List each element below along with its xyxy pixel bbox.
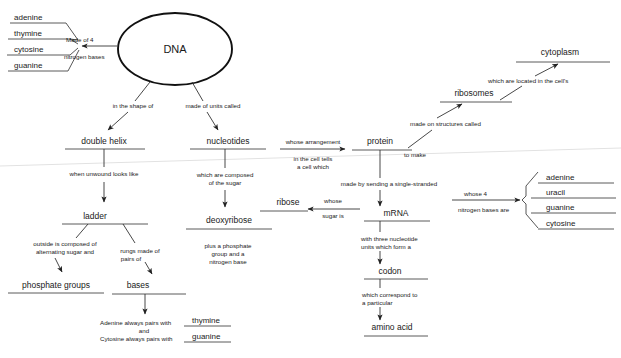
- node-amino-acid: amino acid: [371, 322, 412, 332]
- node-phosphate-groups: phosphate groups: [22, 280, 90, 290]
- link-ladder-to-bases: [145, 262, 152, 274]
- link-label-made-by-sending: made by sending a single-stranded: [341, 180, 438, 187]
- link-to-cytoplasm-arrow: [535, 64, 558, 76]
- link-label-correspond-1: which correspond to: [361, 291, 418, 298]
- node-cytoplasm: cytoplasm: [541, 47, 579, 57]
- pairing-line1-value: thymine: [192, 316, 221, 325]
- link-label-whose: whose: [323, 197, 342, 204]
- link-label-which-are-located: which are located in the cell's: [487, 77, 568, 84]
- link-label-correspond-2: a particular: [362, 299, 393, 306]
- link-ladder-outside: [76, 224, 88, 238]
- concept-map-canvas: adenine thymine cytosine guanine Made of…: [0, 0, 621, 358]
- link-label-rungs-2: pairs of: [121, 255, 142, 262]
- link-shape-arrow: [108, 112, 128, 130]
- mrna-base-item-2: guanine: [546, 203, 575, 212]
- link-label-in-the-shape-of: in the shape of: [113, 102, 154, 109]
- node-ribosomes: ribosomes: [454, 88, 493, 98]
- mrna-base-item-1: uracil: [546, 188, 565, 197]
- node-bases: bases: [127, 280, 150, 290]
- node-nucleotides: nucleotides: [206, 136, 249, 146]
- link-label-outside-2: alternating sugar and: [36, 248, 95, 255]
- link-to-ribosomes-arrow: [437, 104, 462, 118]
- link-label-to-make: to make: [404, 151, 427, 158]
- node-double-helix: double helix: [81, 136, 127, 146]
- link-label-whose-arrangement: whose arrangement: [285, 138, 341, 145]
- concept-map-svg: adenine thymine cytosine guanine Made of…: [0, 0, 621, 358]
- link-dna-to-units: [192, 82, 203, 101]
- dna-base-item-0: adenine: [14, 13, 43, 22]
- link-label-composed-2: of the sugar: [209, 179, 242, 186]
- link-label-plus-phosphate-2: group and a: [211, 250, 245, 257]
- link-label-outside-1: outside is composed of: [33, 240, 97, 247]
- link-label-when-unwound: when unwound looks like: [69, 170, 139, 177]
- dna-node-label: DNA: [163, 43, 187, 55]
- link-label-with-three-2: units which form a: [361, 243, 411, 250]
- link-label-made-of-units-called: made of units called: [185, 102, 241, 109]
- link-ladder-rungs: [123, 224, 135, 243]
- pairing-joiner: and: [139, 327, 150, 334]
- link-label-made-on-structures: made on structures called: [410, 120, 481, 127]
- link-ribosomes-stem: [500, 86, 522, 100]
- dna-base-item-3: guanine: [14, 61, 43, 70]
- dna-base-item-2: cytosine: [14, 45, 44, 54]
- link-units-arrow: [207, 112, 218, 130]
- mrna-base-brace: [522, 172, 538, 228]
- link-label-with-three-1: with three nucleotide: [360, 235, 418, 242]
- link-label-nitrogen-bases-are: nitrogen bases are: [458, 206, 510, 213]
- link-label-plus-phosphate-3: nitrogen base: [209, 258, 247, 265]
- pairing-line1-prefix: Adenine always pairs with: [100, 319, 172, 326]
- node-codon: codon: [378, 266, 401, 276]
- mrna-bases-list: adenine uracil guanine cytosine: [522, 172, 616, 229]
- node-ribose: ribose: [276, 197, 299, 207]
- link-label-cell-tells-2: a cell which: [297, 163, 330, 170]
- link-dna-to-shape: [135, 82, 150, 101]
- link-label-rungs-1: rungs made of: [120, 247, 160, 254]
- node-ladder: ladder: [83, 211, 107, 221]
- link-ladder-to-phosphate: [55, 258, 62, 272]
- mrna-base-item-3: cytosine: [546, 219, 576, 228]
- pairing-line2-prefix: Cytosine always pairs with: [100, 335, 173, 342]
- pairing-line2-value: guanine: [192, 332, 221, 341]
- link-label-nitrogen-bases: nitrogen bases: [64, 53, 105, 60]
- node-protein: protein: [367, 136, 393, 146]
- base-pairing-block: Adenine always pairs with thymine and Cy…: [100, 316, 231, 342]
- link-protein-to-make: [408, 130, 432, 148]
- link-label-plus-phosphate-1: plus a phosphate: [204, 242, 252, 249]
- link-label-composed-1: which are composed: [196, 171, 254, 178]
- link-label-made-of-4: Made of 4: [66, 36, 94, 43]
- node-mrna: mRNA: [383, 208, 408, 218]
- mrna-base-item-0: adenine: [546, 173, 575, 182]
- link-label-whose-4: whose 4: [463, 190, 488, 197]
- link-label-sugar-is: sugar is: [322, 212, 344, 219]
- node-deoxyribose: deoxyribose: [206, 215, 252, 225]
- link-label-cell-tells-1: in the cell tells: [294, 155, 333, 162]
- dna-base-item-1: thymine: [14, 29, 43, 38]
